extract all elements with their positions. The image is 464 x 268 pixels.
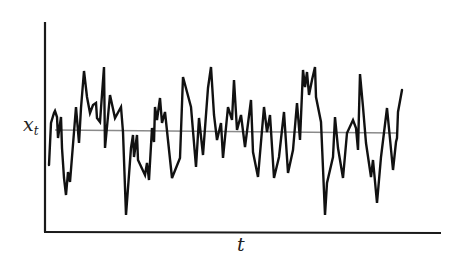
series-line <box>49 67 402 215</box>
y-axis-label-main: x <box>23 113 34 135</box>
y-axis-label: xt <box>23 113 39 138</box>
y-axis-label-subscript: t <box>34 124 39 138</box>
x-axis-label: t <box>237 233 245 255</box>
time-series-chart <box>0 0 464 268</box>
